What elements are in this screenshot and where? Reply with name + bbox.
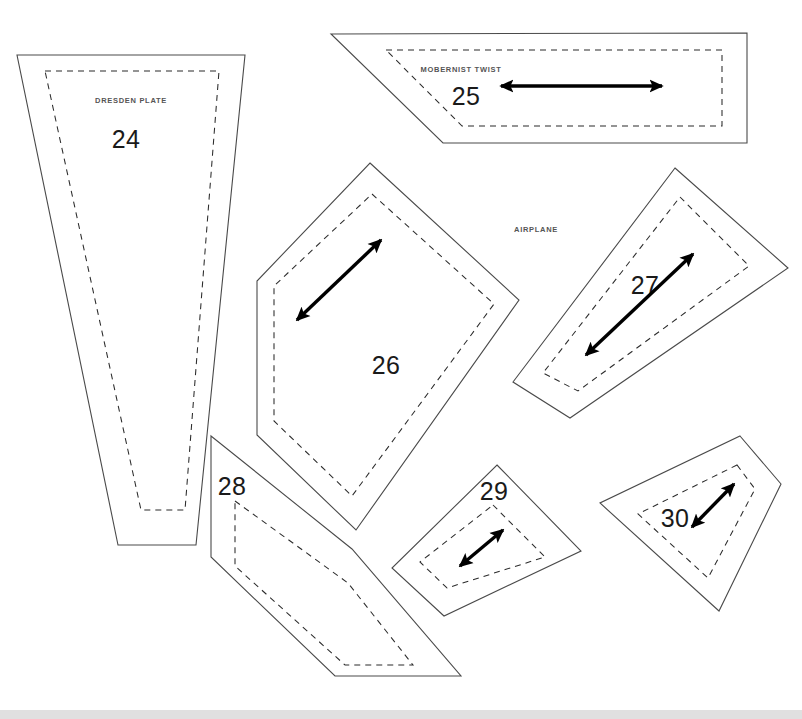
piece-number-text: 28: [218, 472, 246, 500]
pattern-piece-27[interactable]: AIRPLANE 27: [513, 168, 788, 418]
cut-line-solid: [600, 436, 781, 611]
piece-label-text: MOBERNIST TWIST: [421, 65, 502, 74]
pattern-piece-26[interactable]: 26: [257, 163, 519, 530]
pattern-pieces-svg: DRESDEN PLATE 24 MOBERNIST TWIST 25 26 A…: [0, 0, 802, 719]
pattern-piece-30[interactable]: 30: [600, 436, 781, 611]
piece-number-text: 27: [631, 271, 659, 299]
piece-number-text: 30: [661, 504, 689, 532]
piece-label-text: DRESDEN PLATE: [95, 96, 167, 105]
piece-number-text: 26: [372, 351, 400, 379]
cut-line-solid: [257, 163, 519, 530]
piece-label-text: AIRPLANE: [514, 225, 558, 234]
piece-number-text: 25: [452, 82, 480, 110]
pattern-piece-25[interactable]: MOBERNIST TWIST 25: [331, 33, 747, 143]
piece-number-text: 24: [112, 125, 140, 153]
pattern-piece-29[interactable]: 29: [392, 465, 581, 616]
horizontal-scrollbar-track[interactable]: [0, 710, 802, 719]
pattern-sheet-canvas: DRESDEN PLATE 24 MOBERNIST TWIST 25 26 A…: [0, 0, 802, 719]
piece-number-text: 29: [480, 477, 508, 505]
horizontal-scrollbar-thumb[interactable]: [0, 710, 802, 719]
